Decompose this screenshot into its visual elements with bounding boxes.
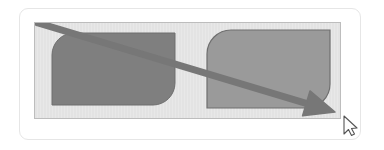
screenshot-canvas: [0, 0, 384, 150]
mouse-pointer-cursor: [344, 116, 357, 136]
vector-overlay: [0, 0, 384, 150]
cursor-arrow-icon: [344, 116, 357, 136]
